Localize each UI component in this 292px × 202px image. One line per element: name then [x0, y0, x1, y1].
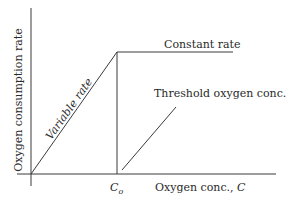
- y-axis-label: Oxygen consumption rate: [12, 28, 25, 172]
- threshold-label: Threshold oxygen conc.: [154, 87, 286, 100]
- x-axis-label-var: C: [237, 181, 246, 194]
- c0-tick-label: Co: [110, 181, 123, 196]
- variable-rate-label: Variable rate: [43, 75, 95, 142]
- constant-rate-label: Constant rate: [164, 38, 241, 51]
- c0-subscript: o: [118, 187, 123, 196]
- x-axis-label: Oxygen conc., C: [155, 181, 246, 194]
- oxygen-consumption-diagram: Oxygen consumption rate Variable rate Co…: [0, 0, 292, 202]
- diagram-canvas: Oxygen consumption rate Variable rate Co…: [0, 0, 292, 202]
- x-axis-label-text: Oxygen conc.,: [155, 181, 237, 194]
- threshold-pointer-line: [122, 107, 176, 170]
